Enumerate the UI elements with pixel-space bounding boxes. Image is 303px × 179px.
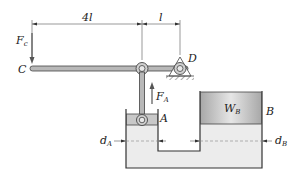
- hydraulic-lever-diagram: 4l l Fc C D FA A WB B: [0, 0, 303, 179]
- point-d-label: D: [187, 52, 197, 65]
- point-b-label: B: [265, 105, 274, 118]
- dimension-4l-label: 4l: [81, 11, 93, 24]
- dimension-lines: [32, 20, 180, 60]
- link-rod: [140, 72, 145, 118]
- diameter-da-label: dA: [100, 134, 112, 148]
- force-fa-arrow: [150, 82, 155, 104]
- force-fc-label: Fc: [15, 34, 28, 48]
- diameter-db-label: dB: [275, 134, 287, 148]
- dimension-l-label: l: [159, 11, 163, 24]
- lever-bar: [30, 66, 188, 71]
- point-a-label: A: [159, 112, 168, 125]
- force-fc-arrow: [30, 33, 35, 64]
- point-c-label: C: [18, 63, 27, 76]
- force-fa-label: FA: [155, 90, 169, 104]
